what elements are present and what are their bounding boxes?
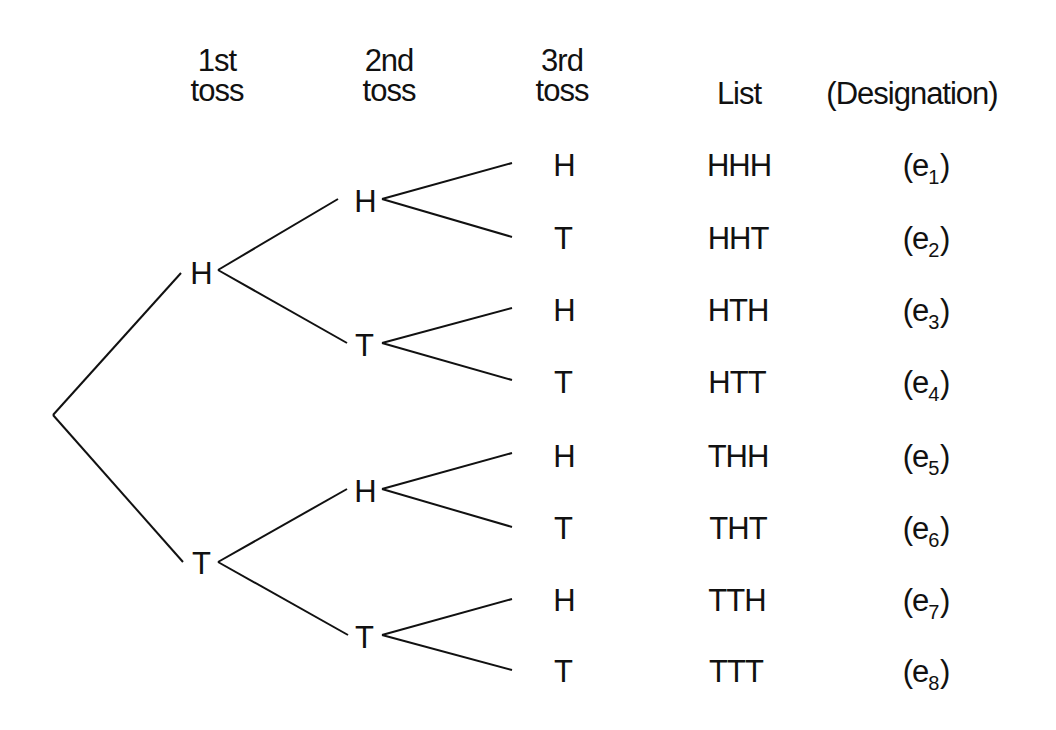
branch-H-H: [218, 199, 338, 270]
list-item: TTH: [708, 585, 765, 616]
branch-TH-H: [382, 453, 512, 489]
designation-item: (e4 ): [903, 367, 950, 398]
designation-subscript: 5: [928, 457, 938, 479]
list-item: HHT: [708, 223, 769, 254]
designation-item: (e7 ): [903, 585, 950, 616]
branch-root-H: [53, 273, 181, 415]
designation-item: (e8 ): [903, 656, 950, 687]
designation-letter: e: [912, 221, 928, 256]
designation-item: (e6 ): [903, 513, 950, 544]
list-item: THH: [708, 441, 769, 472]
designation-subscript: 4: [928, 383, 938, 405]
node-level2-HT: T: [355, 330, 373, 361]
node-level3-8: T: [554, 656, 572, 687]
list-item: THT: [709, 513, 766, 544]
node-level3-5: H: [553, 441, 574, 472]
node-level3-3: H: [553, 295, 574, 326]
designation-item: (e1 ): [903, 150, 950, 181]
tree-diagram-lines: [0, 0, 1056, 730]
branch-TT-T: [382, 635, 512, 670]
node-level1-H: H: [190, 258, 211, 289]
branch-root-T: [53, 415, 183, 562]
branch-T-H: [218, 489, 347, 562]
list-item: HHH: [707, 150, 771, 181]
designation-item: (e3 ): [903, 295, 950, 326]
node-level2-TT: T: [355, 622, 373, 653]
designation-subscript: 3: [928, 311, 938, 333]
designation-letter: e: [912, 293, 928, 328]
node-level2-TH: H: [354, 476, 375, 507]
list-item: TTT: [709, 656, 763, 687]
branch-HT-H: [382, 308, 512, 343]
node-level3-7: H: [553, 585, 574, 616]
branch-H-T: [218, 270, 347, 343]
designation-letter: e: [912, 148, 928, 183]
branch-HH-H: [382, 163, 512, 199]
designation-subscript: 1: [928, 166, 938, 188]
designation-letter: e: [912, 511, 928, 546]
designation-item: (e5 ): [903, 441, 950, 472]
node-level3-1: H: [553, 150, 574, 181]
designation-subscript: 8: [928, 672, 938, 694]
branch-HH-T: [382, 199, 512, 237]
designation-item: (e2 ): [903, 223, 950, 254]
branch-TT-H: [382, 599, 512, 635]
node-level3-4: T: [554, 367, 572, 398]
designation-subscript: 6: [928, 529, 938, 551]
branch-T-T: [218, 562, 348, 635]
branch-HT-T: [382, 343, 512, 380]
designation-letter: e: [912, 365, 928, 400]
designation-letter: e: [912, 654, 928, 689]
designation-letter: e: [912, 439, 928, 474]
designation-letter: e: [912, 583, 928, 618]
node-level1-T: T: [192, 548, 210, 579]
designation-subscript: 2: [928, 239, 938, 261]
branch-TH-T: [382, 489, 512, 527]
node-level2-HH: H: [354, 186, 375, 217]
node-level3-2: T: [554, 223, 572, 254]
designation-subscript: 7: [928, 601, 938, 623]
list-item: HTT: [708, 367, 765, 398]
list-item: HTH: [708, 295, 769, 326]
node-level3-6: T: [554, 513, 572, 544]
